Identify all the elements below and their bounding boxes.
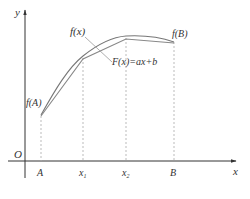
diagram-canvas: y x O A x1 x2 B f(x) F(x)=ax+b f(A) f(B) xyxy=(0,0,250,199)
tick-A: A xyxy=(36,167,44,178)
curve-label: f(x) xyxy=(70,25,86,38)
tick-B: B xyxy=(170,167,176,178)
y-axis-label: y xyxy=(14,6,20,18)
tick-x1: x1 xyxy=(78,167,86,179)
secant-polyline xyxy=(41,39,174,116)
x-axis-label: x xyxy=(232,165,238,177)
f-at-A-label: f(A) xyxy=(26,97,42,109)
tick-x2: x2 xyxy=(121,167,129,179)
origin-label: O xyxy=(14,148,22,160)
f-at-B-label: f(B) xyxy=(172,28,188,40)
secant-label: F(x)=ax+b xyxy=(111,56,157,68)
